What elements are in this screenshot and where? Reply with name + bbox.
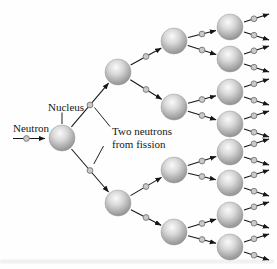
fission-label-line2: from fission: [112, 138, 166, 150]
released-neutron-dot: [251, 252, 257, 258]
fission-diagram-svg: Neutron Nucleus Two neutrons from fissio…: [0, 0, 277, 269]
released-neutron-dot: [251, 220, 257, 226]
released-neutron-dot: [251, 97, 257, 103]
fission-neutron-dot: [87, 102, 93, 108]
released-neutron-dot: [251, 48, 257, 54]
nucleus-sphere-gen4: [217, 234, 243, 260]
nucleus-label: Nucleus: [48, 101, 84, 113]
released-neutron-dot: [251, 204, 257, 210]
fission-chain-reaction-diagram: Neutron Nucleus Two neutrons from fissio…: [0, 0, 277, 269]
nucleus-sphere-gen3: [161, 219, 187, 245]
nucleus-sphere-gen4: [217, 14, 243, 40]
released-neutron-dot: [251, 157, 257, 163]
fission-neutron-dot: [199, 47, 205, 53]
released-neutron-dot: [251, 81, 257, 87]
released-neutron-dot: [251, 16, 257, 22]
nucleus-sphere-gen4: [217, 46, 243, 72]
released-neutron-dot: [251, 141, 257, 147]
released-neutron-dot: [251, 64, 257, 70]
fission-neutron-dot: [199, 113, 205, 119]
released-neutron-dot: [251, 32, 257, 38]
page-edge-artifact: [0, 260, 274, 264]
nucleus-sphere-gen4: [217, 202, 243, 228]
fission-neutron-dot: [199, 174, 205, 180]
nucleus-sphere-gen2: [105, 190, 131, 216]
neutron-label: Neutron: [13, 122, 50, 134]
nucleus-sphere-gen3: [161, 28, 187, 54]
nucleus-sphere-gen3: [161, 94, 187, 120]
fission-neutron-dot: [143, 184, 149, 190]
nucleus-sphere-gen1: [49, 125, 75, 151]
initial-neutron-dot: [24, 136, 30, 142]
fission-neutron-dot: [199, 221, 205, 227]
released-neutron-dot: [251, 113, 257, 119]
fission-label-pointer-upper: [95, 108, 111, 127]
fission-neutron-dot: [143, 87, 149, 93]
nucleus-sphere-gen4: [217, 79, 243, 105]
nucleus-sphere-gen3: [161, 157, 187, 183]
nucleus-sphere-gen4: [217, 139, 243, 165]
fission-neutron-dot: [199, 97, 205, 103]
fission-neutron-dot: [199, 31, 205, 37]
nucleus-sphere-gen4: [217, 111, 243, 137]
fission-neutron-dot: [143, 54, 149, 60]
fission-label-line1: Two neutrons: [112, 125, 172, 137]
released-neutron-dot: [251, 129, 257, 135]
fission-neutron-dot: [87, 168, 93, 174]
fission-neutron-dot: [143, 215, 149, 221]
fission-label-pointer-lower: [94, 146, 104, 164]
fission-neutron-dot: [199, 237, 205, 243]
released-neutron-dot: [251, 188, 257, 194]
fission-neutron-dot: [199, 158, 205, 164]
released-neutron-dot: [251, 172, 257, 178]
nucleus-sphere-gen4: [217, 170, 243, 196]
nucleus-sphere-gen2: [105, 59, 131, 85]
released-neutron-dot: [251, 236, 257, 242]
